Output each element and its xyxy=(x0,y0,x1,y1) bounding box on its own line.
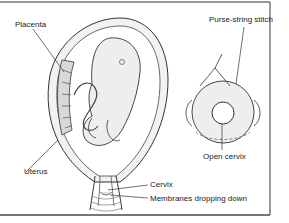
label-purse-string-stitch: Purse-string stitch xyxy=(209,16,273,24)
cervix-leader xyxy=(108,185,148,190)
label-uterus: Uterus xyxy=(24,168,48,176)
label-open-cervix: Open cervix xyxy=(203,153,246,161)
label-membranes-dropping-down: Membranes dropping down xyxy=(150,195,247,203)
purse-string-leader xyxy=(236,27,244,84)
purse-string-stitch-knot xyxy=(200,54,230,86)
open-cervix-illustration xyxy=(186,54,260,143)
label-placenta: Placenta xyxy=(15,21,46,29)
placenta-leader xyxy=(33,29,64,72)
label-cervix: Cervix xyxy=(150,181,173,189)
diagram-figure: Placenta Purse-string stitch Uterus Open… xyxy=(0,0,289,223)
cervical-cerclage-illustration xyxy=(0,0,289,223)
